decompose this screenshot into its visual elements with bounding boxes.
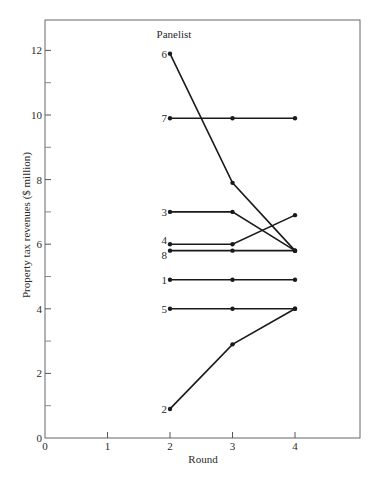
- data-point: [168, 116, 172, 120]
- x-axis-label: Round: [188, 453, 218, 465]
- data-point: [168, 278, 172, 282]
- data-point: [230, 342, 234, 346]
- chart-canvas: 024681012 01234 Panelist Round Property …: [0, 0, 377, 477]
- data-point: [230, 181, 234, 185]
- data-point: [168, 210, 172, 214]
- series-panelist-4: 4: [162, 213, 298, 246]
- panelist-label: 3: [162, 206, 168, 218]
- x-tick-label: 4: [292, 440, 298, 452]
- data-point: [230, 116, 234, 120]
- data-point: [230, 210, 234, 214]
- panelist-title: Panelist: [157, 28, 192, 40]
- y-tick-label: 2: [37, 367, 43, 379]
- series-panelist-1: 1: [162, 274, 298, 286]
- data-point: [230, 278, 234, 282]
- series-panelist-8: 8: [162, 248, 298, 260]
- y-tick-label: 12: [31, 44, 42, 56]
- data-point: [230, 242, 234, 246]
- panelist-label: 1: [162, 274, 168, 286]
- x-tick-label: 2: [167, 440, 173, 452]
- y-axis-ticks: 024681012: [31, 44, 51, 444]
- series-panelist-6: 6: [162, 48, 298, 253]
- series-layer: 67348152: [162, 48, 298, 415]
- series-panelist-5: 5: [162, 303, 298, 315]
- data-point: [293, 213, 297, 217]
- panelist-label: 8: [162, 249, 168, 261]
- panelist-label: 5: [162, 303, 168, 315]
- data-point: [168, 242, 172, 246]
- data-point: [168, 307, 172, 311]
- x-tick-label: 3: [230, 440, 236, 452]
- data-point: [293, 307, 297, 311]
- x-tick-label: 1: [105, 440, 111, 452]
- y-tick-label: 8: [37, 174, 43, 186]
- series-panelist-3: 3: [162, 206, 298, 253]
- panelist-label: 2: [162, 403, 168, 415]
- series-line: [170, 54, 295, 251]
- panelist-label: 4: [162, 234, 168, 246]
- data-point: [293, 116, 297, 120]
- data-point: [230, 248, 234, 252]
- y-tick-label: 10: [31, 109, 43, 121]
- data-point: [230, 307, 234, 311]
- series-line: [170, 309, 295, 409]
- series-panelist-7: 7: [162, 112, 298, 124]
- data-point: [168, 248, 172, 252]
- y-tick-label: 6: [37, 238, 43, 250]
- data-point: [293, 278, 297, 282]
- x-tick-label: 0: [42, 440, 48, 452]
- data-point: [293, 248, 297, 252]
- y-tick-label: 4: [37, 303, 43, 315]
- data-point: [168, 407, 172, 411]
- panelist-label: 6: [162, 48, 168, 60]
- x-axis-ticks: 01234: [42, 432, 298, 452]
- series-panelist-2: 2: [162, 307, 298, 415]
- data-point: [168, 51, 172, 55]
- y-axis-label: Property tax revenues ($ million): [20, 152, 33, 298]
- panelist-label: 7: [162, 112, 168, 124]
